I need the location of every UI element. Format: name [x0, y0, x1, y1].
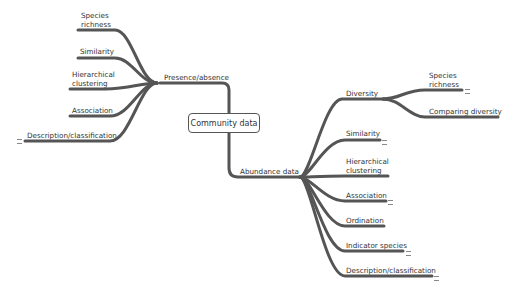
node-presence-absence[interactable]: Presence/absence: [164, 73, 229, 82]
node-ab-hier-clustering-line2: clustering: [346, 166, 389, 175]
note-marker-icon[interactable]: [434, 276, 439, 281]
node-pa-species-richness-line1: Species: [81, 11, 111, 20]
node-pa-hier-clustering[interactable]: Hierarchical clustering: [72, 70, 115, 88]
node-ab-ordination[interactable]: Ordination: [346, 216, 384, 225]
note-marker-icon[interactable]: [382, 140, 387, 145]
node-ab-indicator-species[interactable]: Indicator species: [346, 241, 407, 250]
node-pa-hier-clustering-line2: clustering: [72, 79, 115, 88]
node-div-species-richness[interactable]: Species richness: [429, 71, 459, 89]
node-pa-similarity[interactable]: Similarity: [80, 47, 114, 56]
node-ab-association[interactable]: Association: [346, 191, 387, 200]
connector-root-presence: [160, 83, 229, 113]
node-abundance[interactable]: Abundance data: [240, 167, 299, 176]
node-ab-hier-clustering[interactable]: Hierarchical clustering: [346, 157, 389, 175]
node-ab-hier-clustering-line1: Hierarchical: [346, 157, 389, 166]
node-pa-description[interactable]: Description/classification: [27, 131, 117, 140]
node-pa-hier-clustering-line1: Hierarchical: [72, 70, 115, 79]
note-marker-icon[interactable]: [388, 200, 393, 205]
note-marker-icon[interactable]: [17, 139, 22, 144]
node-div-species-richness-line2: richness: [429, 80, 459, 89]
node-ab-similarity[interactable]: Similarity: [346, 129, 380, 138]
root-node[interactable]: Community data: [188, 113, 260, 133]
node-ab-diversity[interactable]: Diversity: [346, 89, 378, 98]
mind-map-canvas: Community data Presence/absence Species …: [0, 0, 513, 295]
note-marker-icon[interactable]: [465, 89, 470, 94]
connector-ab-hier-clustering: [300, 176, 388, 177]
node-div-comparing[interactable]: Comparing diversity: [429, 107, 502, 116]
node-div-species-richness-line1: Species: [429, 71, 459, 80]
connector-div-species-richness: [383, 90, 462, 99]
node-ab-description[interactable]: Description/classification: [346, 266, 436, 275]
node-pa-association[interactable]: Association: [72, 106, 113, 115]
note-marker-icon[interactable]: [406, 251, 411, 256]
node-pa-species-richness[interactable]: Species richness: [81, 11, 111, 29]
node-pa-species-richness-line2: richness: [81, 20, 111, 29]
mind-map-connectors: [0, 0, 513, 295]
